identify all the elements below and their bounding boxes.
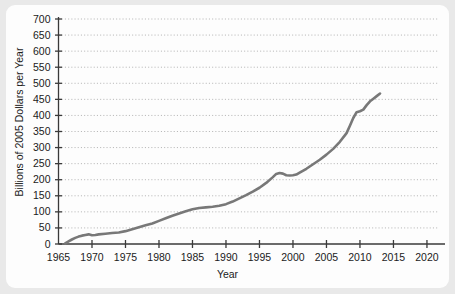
y-tick-label-50: 50: [17, 222, 51, 232]
y-tick-label-700: 700: [17, 14, 51, 24]
data-series-group: [65, 94, 380, 244]
gridlines-group: [59, 19, 439, 228]
y-axis-title: Billions of 2005 Dollars per Year: [13, 48, 25, 197]
x-tick-label-2020: 2020: [407, 252, 447, 262]
line-chart-plot: [0, 0, 455, 294]
y-tick-label-0: 0: [17, 239, 51, 249]
y-axis-title-container: Billions of 2005 Dollars per Year: [10, 32, 28, 212]
tick-marks-group: [55, 19, 427, 248]
series-line-Spending: [65, 94, 380, 244]
chart-figure: 0501001502002503003504004505005506006507…: [0, 0, 455, 294]
chart-page: 0501001502002503003504004505005506006507…: [0, 0, 455, 294]
x-axis-title: Year: [0, 268, 455, 280]
